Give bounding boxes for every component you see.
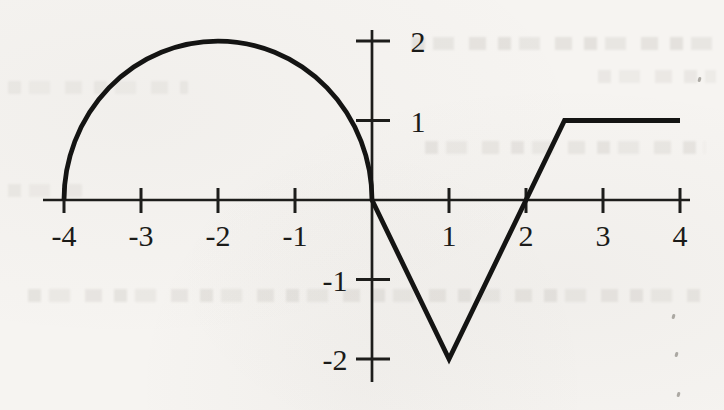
function-graph: -4-3-2-1123421-1-2 — [0, 0, 724, 410]
x-tick-label: 2 — [519, 219, 534, 252]
y-tick-label: -2 — [323, 343, 348, 376]
y-tick-label: 2 — [411, 25, 426, 58]
y-tick-label: 1 — [411, 105, 426, 138]
x-tick-label: 4 — [673, 219, 688, 252]
y-tick-label: -1 — [323, 264, 348, 297]
scanned-textbook-page: -4-3-2-1123421-1-2 — [0, 0, 724, 410]
x-tick-label: -1 — [283, 219, 308, 252]
x-tick-label: -3 — [129, 219, 154, 252]
x-tick-label: 3 — [596, 219, 611, 252]
x-tick-label: -4 — [52, 219, 77, 252]
x-tick-label: 1 — [442, 219, 457, 252]
x-tick-label: -2 — [206, 219, 231, 252]
